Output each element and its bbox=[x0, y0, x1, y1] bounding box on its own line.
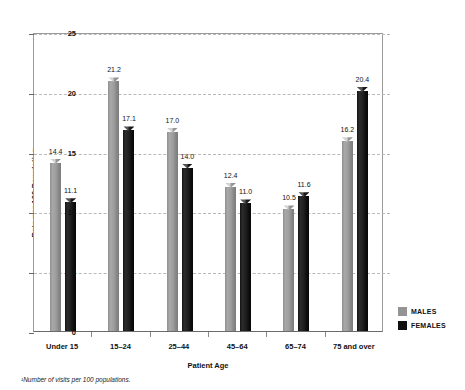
bar-females[interactable]: 17.1 bbox=[123, 126, 134, 331]
bar-value-label: 12.4 bbox=[224, 172, 238, 179]
bar-group: 10.511.6 bbox=[267, 34, 325, 331]
bar-value-label: 17.1 bbox=[122, 115, 136, 122]
bar-females[interactable]: 20.4 bbox=[357, 87, 368, 331]
legend-label-females: FEMALES bbox=[411, 322, 446, 329]
bar-females[interactable]: 11.1 bbox=[65, 198, 76, 331]
legend-swatch-females-icon bbox=[398, 321, 407, 330]
x-axis-label-5: 75 and over bbox=[333, 342, 375, 351]
y-axis-tick bbox=[29, 333, 34, 334]
bar-males[interactable]: 12.4 bbox=[225, 183, 236, 331]
bar-females[interactable]: 14.0 bbox=[182, 164, 193, 331]
bar-group: 17.014.0 bbox=[151, 34, 209, 331]
bar-value-label: 11.6 bbox=[297, 181, 310, 188]
bar-value-label: 20.4 bbox=[356, 76, 370, 83]
y-axis-label: 20 bbox=[36, 88, 76, 97]
bar-group: 14.411.1 bbox=[34, 34, 92, 331]
bar-males[interactable]: 10.5 bbox=[283, 205, 294, 331]
bar-body bbox=[123, 130, 134, 331]
bar-females[interactable]: 11.0 bbox=[240, 199, 251, 331]
legend-label-males: MALES bbox=[411, 308, 437, 315]
x-axis-title: Patient Age bbox=[33, 361, 383, 370]
y-axis-label: 25 bbox=[36, 29, 76, 38]
bar-males[interactable]: 21.2 bbox=[108, 77, 119, 331]
x-axis-label-2: 25–44 bbox=[168, 342, 189, 351]
y-axis-label: 10 bbox=[36, 208, 76, 217]
bar-body bbox=[65, 202, 76, 331]
bar-body bbox=[50, 163, 61, 331]
bar-body bbox=[283, 209, 294, 331]
bar-value-label: 21.2 bbox=[107, 66, 121, 73]
bar-females[interactable]: 11.6 bbox=[298, 192, 309, 331]
bar-body bbox=[298, 196, 309, 331]
bar-body bbox=[240, 203, 251, 331]
bar-value-label: 11.0 bbox=[239, 188, 252, 195]
x-axis-tick bbox=[150, 332, 151, 337]
bar-value-label: 10.5 bbox=[282, 194, 296, 201]
bar-body bbox=[167, 132, 178, 331]
plot-area: 14.411.121.217.117.014.012.411.010.511.6… bbox=[33, 33, 383, 332]
bar-value-label: 11.1 bbox=[64, 187, 77, 194]
scan-artifact: . bbox=[48, 0, 50, 5]
bar-value-label: 14.0 bbox=[181, 153, 195, 160]
y-axis-label: 15 bbox=[36, 148, 76, 157]
x-axis-label-0: Under 15 bbox=[46, 342, 78, 351]
bar-males[interactable]: 14.4 bbox=[50, 159, 61, 331]
bar-value-label: 16.2 bbox=[341, 126, 355, 133]
x-axis-label-3: 45–64 bbox=[227, 342, 248, 351]
bar-males[interactable]: 16.2 bbox=[342, 137, 353, 331]
chart-legend: MALES FEMALES bbox=[398, 307, 462, 335]
bar-group: 21.217.1 bbox=[92, 34, 150, 331]
y-axis-label: 5 bbox=[36, 268, 76, 277]
x-axis-label-1: 15–24 bbox=[110, 342, 131, 351]
bar-body bbox=[108, 81, 119, 331]
bar-body bbox=[182, 168, 193, 331]
bar-body bbox=[225, 187, 236, 331]
x-axis-tick bbox=[266, 332, 267, 337]
x-axis-label-4: 65–74 bbox=[285, 342, 306, 351]
legend-item-females[interactable]: FEMALES bbox=[398, 321, 462, 330]
bar-value-label: 17.0 bbox=[166, 117, 180, 124]
legend-swatch-males-icon bbox=[398, 307, 407, 316]
y-axis-label: 0 bbox=[36, 328, 76, 337]
x-axis-tick bbox=[208, 332, 209, 337]
footnote: ¹Number of visits per 100 populations. bbox=[21, 376, 130, 383]
legend-item-males[interactable]: MALES bbox=[398, 307, 462, 316]
bar-body bbox=[342, 141, 353, 331]
bar-chart-figure: . Rate per 100 Population 14.411.121.217… bbox=[0, 0, 465, 390]
bar-group: 12.411.0 bbox=[209, 34, 267, 331]
x-axis-tick bbox=[325, 332, 326, 337]
bar-body bbox=[357, 91, 368, 331]
bar-males[interactable]: 17.0 bbox=[167, 128, 178, 331]
x-axis-tick bbox=[91, 332, 92, 337]
bar-group: 16.220.4 bbox=[326, 34, 384, 331]
